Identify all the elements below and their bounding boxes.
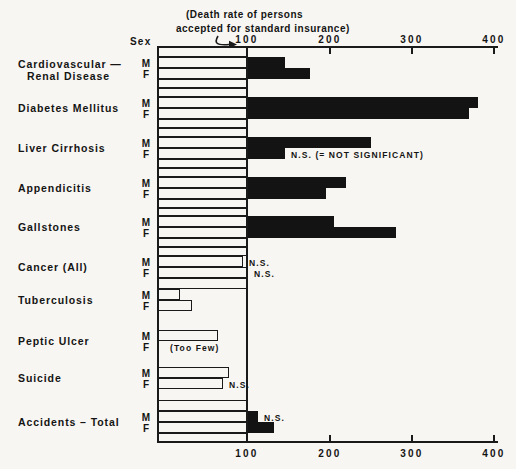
note-cancer-all-f: N.S. [254,269,275,279]
chart-title-line1: (Death rate of persons [186,9,303,20]
ladder-separator-cell-3 [157,119,248,128]
top-tick-200 [329,48,331,54]
bar-suicide-f [157,378,223,389]
ladder-separator-cell-8 [157,208,248,216]
bar-accidents-total-f [246,422,274,433]
sex-f-label-liver-cirrhosis: F [139,149,153,160]
bar-diabetes-mellitus-f [246,108,469,119]
ladder-cell-cardiovascular-renal-disease-m [157,57,248,68]
sex-f-label-cancer-all: F [139,268,153,279]
group-label-suicide: Suicide [18,372,62,384]
ladder-separator-cell-12 [157,400,248,411]
bar-diabetes-mellitus-m [246,97,478,108]
bottom-tick-300 [411,435,413,441]
ladder-separator-cell-4 [157,128,248,137]
bottom-tick-label-100: 100 [225,448,269,459]
bar-tuberculosis-m [157,289,180,300]
group-label-liver-cirrhosis: Liver Cirrhosis [18,142,106,154]
ladder-cell-diabetes-mellitus-f [157,108,248,119]
sex-f-label-tuberculosis: F [139,301,153,312]
bottom-tick-400 [493,435,495,441]
left-edge-line [157,46,159,443]
bottom-axis-line [157,441,498,443]
sex-f-label-suicide: F [139,379,153,390]
sex-m-label-gallstones: M [139,217,153,228]
top-tick-label-400: 400 [472,34,516,45]
group-label-cardiovascular-renal-disease-line1: Cardiovascular — [18,58,122,70]
top-tick-label-100: 100 [225,34,269,45]
sex-m-label-cardiovascular-renal-disease: M [139,58,153,69]
sex-m-label-diabetes-mellitus: M [139,98,153,109]
ladder-separator-cell-0 [157,47,248,57]
bar-appendicitis-f [246,188,326,199]
baseline-100-line [246,46,248,443]
bar-cardiovascular-renal-disease-f [246,68,310,79]
top-tick-label-200: 200 [308,34,352,45]
sex-f-label-gallstones: F [139,228,153,239]
sex-f-label-appendicitis: F [139,189,153,200]
group-label-cancer-all: Cancer (All) [18,261,88,273]
note-liver-cirrhosis-f: N.S. (= NOT SIGNIFICANT) [291,150,424,160]
group-label-accidents-total: Accidents – Total [18,416,119,428]
sex-f-label-diabetes-mellitus: F [139,109,153,120]
ladder-cell-liver-cirrhosis-m [157,137,248,148]
mortality-ratio-chart: (Death rate of persons accepted for stan… [0,0,516,469]
ladder-cell-gallstones-m [157,216,248,227]
bar-liver-cirrhosis-f [246,148,285,159]
ladder-separator-cell-6 [157,168,248,177]
sex-m-label-cancer-all: M [139,257,153,268]
top-tick-300 [411,48,413,54]
ladder-separator-cell-11 [157,278,248,289]
note-peptic-ulcer-f: (Too Few) [170,343,219,353]
ladder-separator-cell-7 [157,199,248,208]
sex-column-header: Sex [130,36,151,47]
group-label-cardiovascular-renal-disease-line2: Renal Disease [27,70,110,82]
bar-tuberculosis-f [157,300,192,311]
bar-cancer-all-f [157,267,248,278]
ladder-separator-cell-9 [157,238,248,247]
ladder-cell-cardiovascular-renal-disease-f [157,68,248,79]
bottom-tick-label-200: 200 [308,448,352,459]
sex-m-label-tuberculosis: M [139,290,153,301]
ladder-separator-cell-5 [157,159,248,168]
top-tick-400 [493,48,495,54]
sex-m-label-accidents-total: M [139,412,153,423]
bar-gallstones-f [246,227,396,238]
ladder-cell-diabetes-mellitus-m [157,97,248,108]
ladder-cell-gallstones-f [157,227,248,238]
sex-m-label-liver-cirrhosis: M [139,138,153,149]
group-label-tuberculosis: Tuberculosis [18,294,93,306]
note-cancer-all-m: N.S. [249,258,270,268]
group-label-gallstones: Gallstones [18,221,81,233]
group-label-peptic-ulcer: Peptic Ulcer [18,335,90,347]
sex-m-label-suicide: M [139,368,153,379]
ladder-cell-appendicitis-f [157,188,248,199]
bottom-tick-label-300: 300 [390,448,434,459]
bottom-tick-200 [329,435,331,441]
sex-f-label-accidents-total: F [139,423,153,434]
bar-cardiovascular-renal-disease-m [246,57,285,68]
bar-appendicitis-m [246,177,346,188]
sex-m-label-appendicitis: M [139,178,153,189]
ladder-cell-accidents-total-m [157,411,248,422]
ladder-cell-liver-cirrhosis-f [157,148,248,159]
top-axis-line [157,46,498,48]
chart-title-line2: accepted for standard insurance) [176,23,350,34]
ladder-separator-cell-1 [157,79,248,88]
bar-cancer-all-m [157,256,243,267]
ladder-separator-cell-2 [157,88,248,97]
bar-peptic-ulcer-m [157,330,218,341]
bar-gallstones-m [246,216,334,227]
bar-suicide-m [157,367,229,378]
ladder-cell-appendicitis-m [157,177,248,188]
sex-f-label-cardiovascular-renal-disease: F [139,69,153,80]
ladder-cell-accidents-total-f [157,422,248,433]
sex-m-label-peptic-ulcer: M [139,331,153,342]
sex-f-label-peptic-ulcer: F [139,342,153,353]
bottom-tick-label-400: 400 [472,448,516,459]
top-tick-label-300: 300 [390,34,434,45]
group-label-appendicitis: Appendicitis [18,182,92,194]
group-label-diabetes-mellitus: Diabetes Mellitus [18,102,119,114]
ladder-separator-cell-10 [157,247,248,256]
bar-liver-cirrhosis-m [246,137,371,148]
